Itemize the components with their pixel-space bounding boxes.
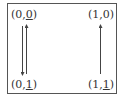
- arrows-layer: [0, 0, 125, 103]
